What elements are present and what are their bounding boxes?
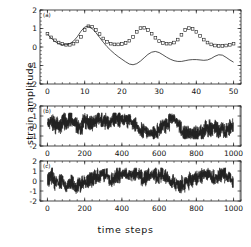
svg-text:0: 0: [45, 87, 50, 96]
svg-text:0: 0: [45, 204, 50, 213]
series-markers-observed: [46, 25, 235, 47]
svg-text:2: 2: [32, 6, 37, 15]
panel-label: (a): [43, 12, 51, 18]
svg-text:1: 1: [32, 112, 37, 121]
panel-a: 01020304050-2-1012(a): [0, 4, 251, 102]
x-axis-label: time steps: [0, 224, 251, 235]
svg-text:600: 600: [152, 204, 167, 213]
svg-text:-1: -1: [30, 61, 38, 70]
panel-label: (c): [43, 163, 50, 169]
svg-text:20: 20: [117, 87, 127, 96]
svg-text:-2: -2: [30, 142, 38, 151]
series-line-chaotic-signal-c: [47, 168, 233, 194]
panel-c-plot: 02004006008001000-2-1012(c): [0, 157, 251, 219]
svg-text:1: 1: [32, 24, 37, 33]
panel-b-plot: 02004006008001000-2-1012(b): [0, 102, 251, 164]
svg-text:0: 0: [32, 43, 37, 52]
panel-label: (b): [43, 108, 51, 114]
svg-text:-2: -2: [30, 197, 38, 206]
svg-text:2: 2: [32, 157, 37, 166]
panel-c: 02004006008001000-2-1012(c): [0, 157, 251, 219]
svg-text:200: 200: [78, 204, 93, 213]
svg-text:1000: 1000: [224, 204, 243, 213]
svg-text:40: 40: [192, 87, 202, 96]
series-line-chaotic-signal-b: [47, 113, 233, 139]
panel-b: 02004006008001000-2-1012(b): [0, 102, 251, 164]
svg-text:-1: -1: [30, 187, 38, 196]
svg-text:400: 400: [115, 204, 130, 213]
svg-text:10: 10: [80, 87, 90, 96]
svg-text:1: 1: [32, 167, 37, 176]
figure-strain-amplitude: strain amplitude time steps 01020304050-…: [0, 0, 251, 247]
svg-text:0: 0: [32, 122, 37, 131]
panel-a-plot: 01020304050-2-1012(a): [0, 4, 251, 102]
series-line-model: [47, 26, 233, 64]
svg-text:-1: -1: [30, 132, 38, 141]
svg-text:50: 50: [229, 87, 239, 96]
svg-text:-2: -2: [30, 80, 38, 89]
svg-text:2: 2: [32, 102, 37, 111]
svg-text:800: 800: [189, 204, 204, 213]
svg-text:30: 30: [154, 87, 164, 96]
page-text-bleed: [0, 239, 251, 247]
svg-text:0: 0: [32, 177, 37, 186]
